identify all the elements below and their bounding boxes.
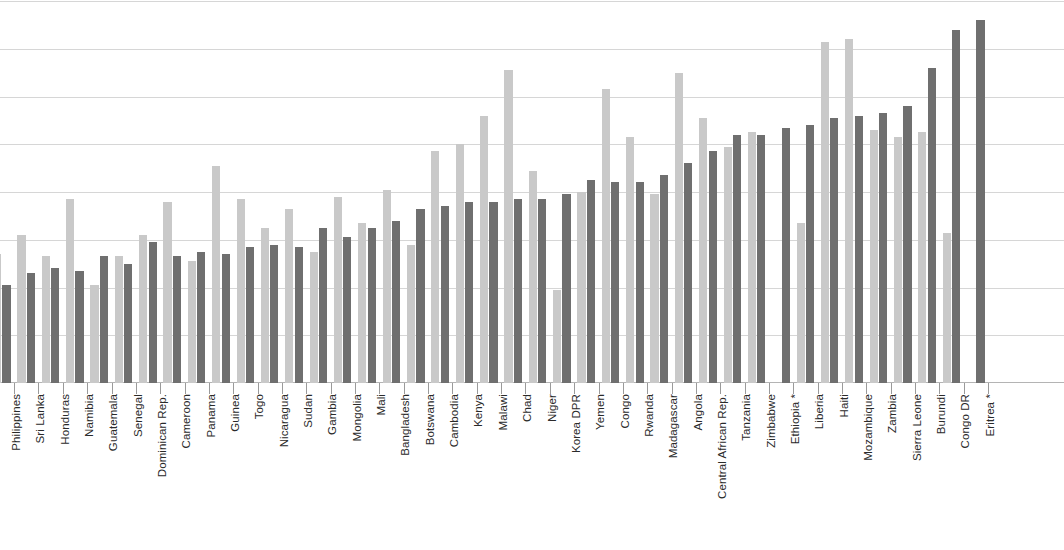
x-axis-label-text: Rwanda [644,394,655,437]
x-axis-label: Yemen [591,394,602,430]
x-axis-tick [501,383,502,394]
x-axis-tick [112,383,113,394]
bar [952,30,960,383]
x-axis-tick [915,383,916,394]
x-axis-tick [525,383,526,394]
x-axis-label-text: Mozambique [863,394,874,461]
bar [163,202,171,383]
x-axis-label: Mongolia [348,394,359,441]
bar [636,182,644,383]
x-axis-label-text: Botswana [425,394,436,445]
bar [748,132,756,383]
x-axis-tick [477,383,478,394]
bar [237,199,245,383]
bar [66,199,74,383]
x-axis-label-text: Madagascar [668,394,679,458]
bar [310,252,318,383]
bar [489,202,497,383]
bar [562,194,570,383]
x-axis-label: Sri Lanka [31,394,42,443]
x-axis-tick [185,383,186,394]
x-axis-tick [964,383,965,394]
x-axis-tick [769,383,770,394]
x-axis-tick [891,383,892,394]
x-axis-label: Angola [689,394,700,430]
x-axis-tick [233,383,234,394]
x-axis-tick [647,383,648,394]
bar [197,252,205,383]
x-axis-label: Dominican Rep. [153,394,164,477]
bar-series-container [0,0,1064,383]
x-axis-label-text: Angola [693,394,704,430]
x-axis-label-text: Eritrea * [985,394,996,436]
x-axis-label: Namibia [80,394,91,437]
x-axis-label-text: Yemen [595,394,606,430]
x-axis-label-text: Guatemala [108,394,119,451]
x-axis-label: Congo DR [956,394,967,449]
x-axis-label: Niger [543,394,554,422]
x-axis-label-text: Guinea [230,394,241,432]
x-axis-tick [355,383,356,394]
x-axis-label: Haiti [835,394,846,418]
chart-screenshot: PhilippinesSri LankaHondurasNamibiaGuate… [0,0,1064,550]
bar [17,235,25,383]
x-axis-tick [574,383,575,394]
x-axis-label: Central African Rep. [713,394,724,499]
bar [407,245,415,383]
x-axis-label: Rwanda [640,394,651,437]
x-axis-tick [842,383,843,394]
bar [845,39,853,383]
x-axis-label: Nicaragua [275,394,286,447]
x-axis-tick [818,383,819,394]
bar [894,137,902,383]
x-axis-tick [672,383,673,394]
bar [797,223,805,383]
x-axis-label-text: Korea DPR [571,394,582,453]
bar [295,247,303,383]
bar [100,256,108,383]
bar [675,73,683,383]
bar [124,264,132,383]
bar [782,128,790,383]
x-axis-label: Honduras [56,394,67,445]
x-axis-label: Korea DPR [567,394,578,453]
bar [261,228,269,383]
bar [918,132,926,383]
x-axis-label-text: Malawi [498,394,509,430]
bar [270,245,278,383]
bar [821,42,829,383]
bar [587,180,595,383]
x-axis-label: Burundi [932,394,943,434]
bar [416,209,424,383]
bar [285,209,293,383]
plot-area [0,0,1064,383]
bar [660,175,668,383]
x-axis-tick [793,383,794,394]
bar [383,190,391,383]
x-axis-label-text: Honduras [60,394,71,445]
x-axis-label: Togo [250,394,261,419]
x-axis-label-text: Togo [254,394,265,419]
x-axis-label: Kenya [469,394,480,427]
x-axis-category-labels: PhilippinesSri LankaHondurasNamibiaGuate… [0,394,1064,550]
bar [222,254,230,383]
x-axis-label: Sudan [299,394,310,428]
bar [684,163,692,383]
bar [465,202,473,383]
x-axis-tick [14,383,15,394]
bar [709,151,717,383]
x-axis-label: Botswana [421,394,432,445]
bar [480,116,488,383]
x-axis-label-text: Burundi [936,394,947,434]
x-axis-label-text: Mali [376,394,387,416]
bar [319,228,327,383]
x-axis-tick [939,383,940,394]
x-axis-label: Cambodia [445,394,456,447]
bar [456,144,464,383]
bar [188,261,196,383]
bar [870,130,878,383]
x-axis-label-text: Tanzania [741,394,752,441]
bar [724,147,732,383]
bar [358,223,366,383]
bar [879,113,887,383]
